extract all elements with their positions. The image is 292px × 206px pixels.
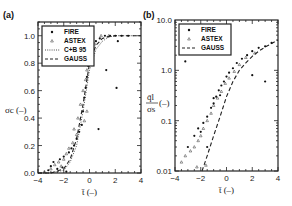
data-point-astex — [233, 70, 236, 72]
data-point-fire — [202, 122, 204, 124]
data-point-astex — [184, 154, 187, 156]
data-point-fire — [219, 94, 221, 96]
data-point-astex — [193, 146, 196, 148]
data-point-fire — [228, 72, 230, 74]
legend: FIREASTEXGAUSS — [179, 24, 231, 55]
x-tick-label: 0 — [87, 176, 92, 185]
legend-label: FIRE — [64, 28, 79, 35]
figure: −4−20240.00.20.40.60.81.0FIREASTEXC+B 95… — [0, 0, 292, 206]
data-point-astex — [202, 127, 205, 129]
x-axis-label: t̄ (–) — [81, 187, 97, 197]
data-point-astex — [77, 117, 80, 119]
data-point-astex — [238, 63, 241, 65]
data-point-astex — [68, 147, 71, 149]
y-label-numerator: q̄l — [147, 92, 155, 102]
data-point-fire — [104, 35, 106, 37]
data-point-fire — [236, 62, 238, 64]
y-tick-label: 0.01 — [156, 167, 172, 176]
data-point-astex — [212, 104, 215, 106]
data-point-astex — [83, 119, 86, 121]
data-point-fire — [270, 42, 272, 44]
data-point-fire — [56, 168, 58, 170]
data-point-astex — [57, 161, 60, 163]
x-tick-label: 4 — [139, 176, 144, 185]
y-tick-label: 0.1 — [161, 117, 173, 126]
data-point-fire — [264, 45, 266, 47]
panel-a: −4−20240.00.20.40.60.81.0FIREASTEXC+B 95… — [3, 10, 144, 197]
data-point-fire — [105, 69, 107, 71]
y-tick-label: 0.4 — [24, 114, 36, 123]
data-point-fire — [85, 87, 87, 89]
data-point-fire — [258, 47, 260, 49]
data-point-fire — [127, 35, 129, 37]
y-tick-label: 10.0 — [156, 16, 172, 25]
data-point-astex — [62, 158, 65, 160]
y-axis-label-a: σc (–) — [5, 105, 27, 115]
data-point-astex — [86, 110, 89, 112]
gauss-curve — [202, 40, 278, 171]
data-point-fire — [206, 146, 208, 148]
data-point-fire — [52, 161, 54, 163]
data-point-fire — [73, 144, 75, 146]
data-point-fire — [251, 74, 253, 76]
data-point-fire — [83, 96, 85, 98]
data-point-astex — [65, 152, 68, 154]
panel-label: (a) — [3, 10, 14, 20]
data-point-fire — [65, 171, 67, 173]
legend-label: GAUSS — [64, 55, 88, 62]
data-point-fire — [232, 67, 234, 69]
x-tick-label: 4 — [276, 174, 281, 183]
legend-marker-fire — [188, 29, 190, 31]
data-point-fire — [81, 124, 83, 126]
data-point-astex — [82, 89, 85, 91]
y-tick-label: 1.0 — [24, 32, 36, 41]
x-tick-label: −2 — [196, 174, 206, 183]
data-point-astex — [53, 163, 56, 165]
data-point-fire — [59, 158, 61, 160]
data-point-fire — [251, 50, 253, 52]
legend: FIREASTEXC+B 95GAUSS — [42, 26, 94, 66]
y-tick-label: 0.2 — [24, 142, 36, 151]
data-point-astex — [71, 141, 74, 143]
data-point-fire — [97, 128, 99, 130]
y-label-denominator: σs — [147, 104, 156, 114]
data-point-astex — [79, 103, 82, 105]
x-axis-label: t̄ (–) — [218, 185, 234, 195]
data-point-astex — [75, 133, 78, 135]
y-tick-label: 0.6 — [24, 87, 36, 96]
data-point-astex — [50, 167, 53, 169]
data-point-astex — [199, 134, 202, 136]
x-tick-label: 2 — [250, 174, 255, 183]
y-axis-label-b: q̄lσs(–) — [146, 92, 170, 114]
data-point-astex — [205, 164, 208, 166]
data-point-fire — [115, 87, 117, 89]
data-point-fire — [213, 97, 215, 99]
data-point-astex — [100, 34, 103, 36]
data-point-fire — [99, 37, 101, 39]
y-tick-label: 1.0 — [161, 66, 173, 75]
data-point-astex — [245, 56, 248, 58]
panel-label: (b) — [143, 10, 155, 20]
data-point-fire — [197, 127, 199, 129]
data-point-astex — [210, 112, 213, 114]
x-tick-label: 2 — [113, 176, 118, 185]
data-point-fire — [117, 40, 119, 42]
data-point-fire — [210, 107, 212, 109]
data-point-fire — [187, 146, 189, 148]
data-point-fire — [82, 110, 84, 112]
legend-marker-fire — [51, 31, 53, 33]
legend-label: GAUSS — [201, 44, 225, 51]
legend-label: C+B 95 — [64, 46, 87, 53]
data-point-fire — [47, 169, 49, 171]
data-point-fire — [218, 89, 220, 91]
data-point-fire — [86, 76, 88, 78]
data-point-fire — [193, 135, 195, 137]
y-tick-label: 0.0 — [24, 169, 36, 178]
data-point-fire — [223, 80, 225, 82]
data-point-fire — [76, 138, 78, 140]
legend-label: ASTEX — [201, 35, 223, 42]
data-point-fire — [68, 151, 70, 153]
data-point-fire — [70, 147, 72, 149]
data-point-fire — [78, 131, 80, 133]
x-tick-label: −2 — [59, 176, 69, 185]
